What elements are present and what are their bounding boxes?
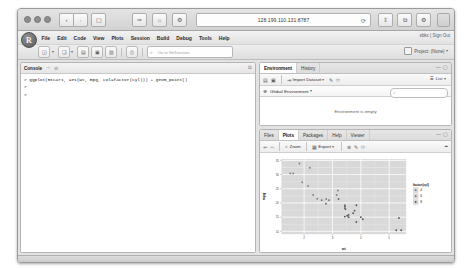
menu-session[interactable]: Session — [127, 35, 153, 41]
data-point — [337, 190, 339, 192]
rstudio-logo: R — [21, 32, 37, 48]
goto-file-input[interactable]: ⌕ Go to file/function — [147, 46, 233, 58]
address-bar[interactable]: 128.199.110.131:8787 ⟳ — [196, 13, 371, 27]
broom-icon[interactable]: ✎ — [329, 77, 333, 83]
new-file-icon[interactable]: ◲ — [38, 46, 50, 58]
arrow-right-icon[interactable]: ➡ — [270, 144, 274, 150]
load-workspace-icon[interactable]: ▤ — [263, 77, 268, 83]
close-button[interactable] — [24, 16, 31, 23]
menu-debug[interactable]: Debug — [173, 35, 196, 41]
extensions-button[interactable]: ⚙ — [172, 13, 187, 27]
tab-help[interactable]: Help — [328, 130, 346, 140]
new-project-caret-icon[interactable]: ▾ — [71, 50, 73, 54]
global-environment-selector[interactable]: Global Environment ▾ — [270, 89, 314, 94]
refresh-plot-icon[interactable]: ⟳ — [361, 144, 365, 150]
menu-code[interactable]: Code — [70, 35, 90, 41]
tab-history[interactable]: History — [297, 63, 320, 73]
project-icon — [404, 47, 412, 55]
save-icon[interactable]: ▣ — [91, 46, 103, 58]
legend-key-point — [415, 189, 417, 191]
publish-plot-button[interactable]: ☁ — [444, 143, 448, 148]
menu-help[interactable]: Help — [215, 35, 233, 41]
x-axis-label: wt — [341, 247, 347, 251]
environment-toolbar: ▤ ▣ ⇥ Import Dataset ▾ ✎ ⟳ ☰ List — [260, 74, 451, 86]
account-area: sbkx | Sign Out — [420, 33, 450, 38]
zoom-plot-button[interactable]: ⌕ Zoom — [285, 143, 301, 150]
chevron-down-icon: ▾ — [446, 49, 448, 53]
console-output[interactable]: > ggplot(mtcars, aes(wt, mpg, col=factor… — [21, 74, 255, 252]
import-dataset-button[interactable]: ⇥ Import Dataset ▾ — [287, 77, 326, 83]
clear-console-icon[interactable]: ⊘ — [54, 66, 58, 71]
export-plot-button[interactable]: ▦ Export ▾ — [312, 144, 336, 150]
menu-build[interactable]: Build — [153, 35, 173, 41]
reload-icon[interactable]: ⟳ — [361, 16, 366, 23]
environment-search-input[interactable]: ⌕ — [390, 88, 448, 98]
plots-pane-tools: — ▢ — [436, 132, 448, 137]
environment-list-toggle[interactable]: ☰ List ▾ — [430, 76, 448, 81]
home-button[interactable]: ⌂ — [152, 13, 167, 27]
sign-out-link[interactable]: Sign Out — [432, 33, 450, 38]
minimize-pane-icon[interactable]: — — [436, 65, 441, 70]
console-line: > — [24, 83, 252, 90]
menu-plots[interactable]: Plots — [108, 35, 127, 41]
browser-window: ‹ › ▢ ✑ ⌂ ⚙ 128.199.110.131:8787 ⟳ ⇪ ⧉ ⚙… — [17, 8, 455, 263]
rstudio-menubar: R File Edit Code View Plots Session Buil… — [18, 31, 454, 45]
menu-file[interactable]: File — [38, 35, 54, 41]
tab-environment[interactable]: Environment — [260, 63, 297, 73]
tab-packages[interactable]: Packages — [299, 130, 328, 140]
minimize-pane-icon[interactable]: — — [436, 132, 441, 137]
maximize-pane-icon[interactable]: ▢ — [443, 65, 448, 70]
remove-plot-icon[interactable]: ⊗ — [347, 144, 351, 150]
maximize-button[interactable] — [44, 16, 51, 23]
back-button[interactable]: ‹ — [59, 13, 73, 27]
data-point — [354, 210, 356, 212]
plots-toolbar-separator-2 — [306, 142, 307, 151]
plot-display[interactable]: 1015202530352345wtmpgfactor(cyl)468 — [260, 153, 451, 252]
menu-view[interactable]: View — [90, 35, 108, 41]
legend-key-point — [415, 195, 417, 197]
window-grip[interactable] — [437, 13, 450, 27]
magnifier-icon: ⌕ — [285, 143, 288, 150]
project-label: Project: (None) — [414, 49, 444, 54]
minimize-button[interactable] — [34, 16, 41, 23]
chevron-down-icon: ▾ — [444, 77, 446, 81]
maximize-pane-icon[interactable]: ▢ — [443, 132, 448, 137]
data-point — [325, 198, 327, 200]
data-point — [325, 203, 327, 205]
data-point — [336, 194, 338, 196]
data-point — [395, 229, 397, 231]
y-tick-label: 25 — [276, 187, 280, 191]
data-point — [362, 218, 364, 220]
rstudio-toolbar: ◲▾ ❏▾ ▤ ▣ ▥ ⎙ ⌕ Go to file/function Proj… — [18, 45, 454, 60]
legend-title: factor(cyl) — [413, 183, 429, 187]
environment-body: Environment is empty — [260, 97, 451, 125]
maximize-pane-icon[interactable]: ⧉ — [248, 65, 252, 70]
reader-button[interactable]: ✑ — [132, 13, 147, 27]
data-point — [289, 172, 291, 174]
save-workspace-icon[interactable]: ▣ — [271, 77, 276, 83]
tabs-icon[interactable]: ⧉ — [397, 13, 412, 27]
plot-panel — [281, 159, 406, 234]
new-project-icon[interactable]: ❏ — [58, 46, 70, 58]
new-file-caret-icon[interactable]: ▾ — [52, 50, 54, 54]
save-all-icon[interactable]: ▥ — [105, 46, 117, 58]
tab-viewer[interactable]: Viewer — [347, 130, 370, 140]
console-pane-tools: ⧉ — [248, 65, 252, 70]
menu-tools[interactable]: Tools — [195, 35, 215, 41]
tab-files[interactable]: Files — [260, 130, 279, 140]
search-icon: ⌕ — [393, 90, 396, 95]
arrow-left-icon[interactable]: ⬅ — [263, 144, 267, 150]
sidebar-toggle-button[interactable]: ▢ — [91, 13, 106, 27]
clear-plots-icon[interactable]: ✎ — [354, 144, 358, 150]
tab-plots[interactable]: Plots — [279, 130, 299, 140]
gear-icon[interactable]: ⚙ — [416, 13, 431, 27]
refresh-icon[interactable]: ⟳ — [336, 77, 340, 83]
open-file-icon[interactable]: ▤ — [77, 46, 89, 58]
data-point — [328, 199, 330, 201]
project-selector[interactable]: Project: (None) ▾ — [404, 47, 450, 55]
forward-button[interactable]: › — [73, 13, 88, 27]
share-icon[interactable]: ⇪ — [378, 13, 393, 27]
plots-toolbar: ⬅ ➡ ⌕ Zoom ▦ Export ▾ — [260, 141, 451, 153]
menu-edit[interactable]: Edit — [54, 35, 70, 41]
print-icon[interactable]: ⎙ — [126, 46, 138, 58]
